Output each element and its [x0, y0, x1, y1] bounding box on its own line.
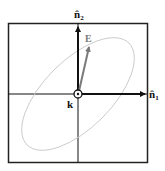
n1-label: n̂1: [149, 88, 159, 102]
k-out-of-page-icon: [74, 90, 82, 98]
e-vector-arrow: [79, 47, 89, 91]
k-label: k: [67, 98, 74, 110]
polarization-diagram: n̂2 n̂1 E k: [0, 0, 165, 171]
e-label: E: [85, 33, 92, 44]
n2-label: n̂2: [74, 8, 84, 22]
